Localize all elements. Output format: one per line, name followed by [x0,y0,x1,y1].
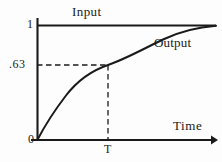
input-annotation-label: Input [72,5,101,18]
output-annotation-label: Output [154,36,191,49]
y-tick-label-point63: .63 [9,58,26,70]
step-response-figure: Input Output Time 1 .63 0 T [0,0,222,162]
x-axis-title-time: Time [173,119,202,132]
x-axis-arrow-icon [211,136,218,145]
y-tick-label-one: 1 [27,18,33,30]
origin-label-zero: 0 [28,133,34,145]
x-tick-label-t: T [104,143,111,155]
